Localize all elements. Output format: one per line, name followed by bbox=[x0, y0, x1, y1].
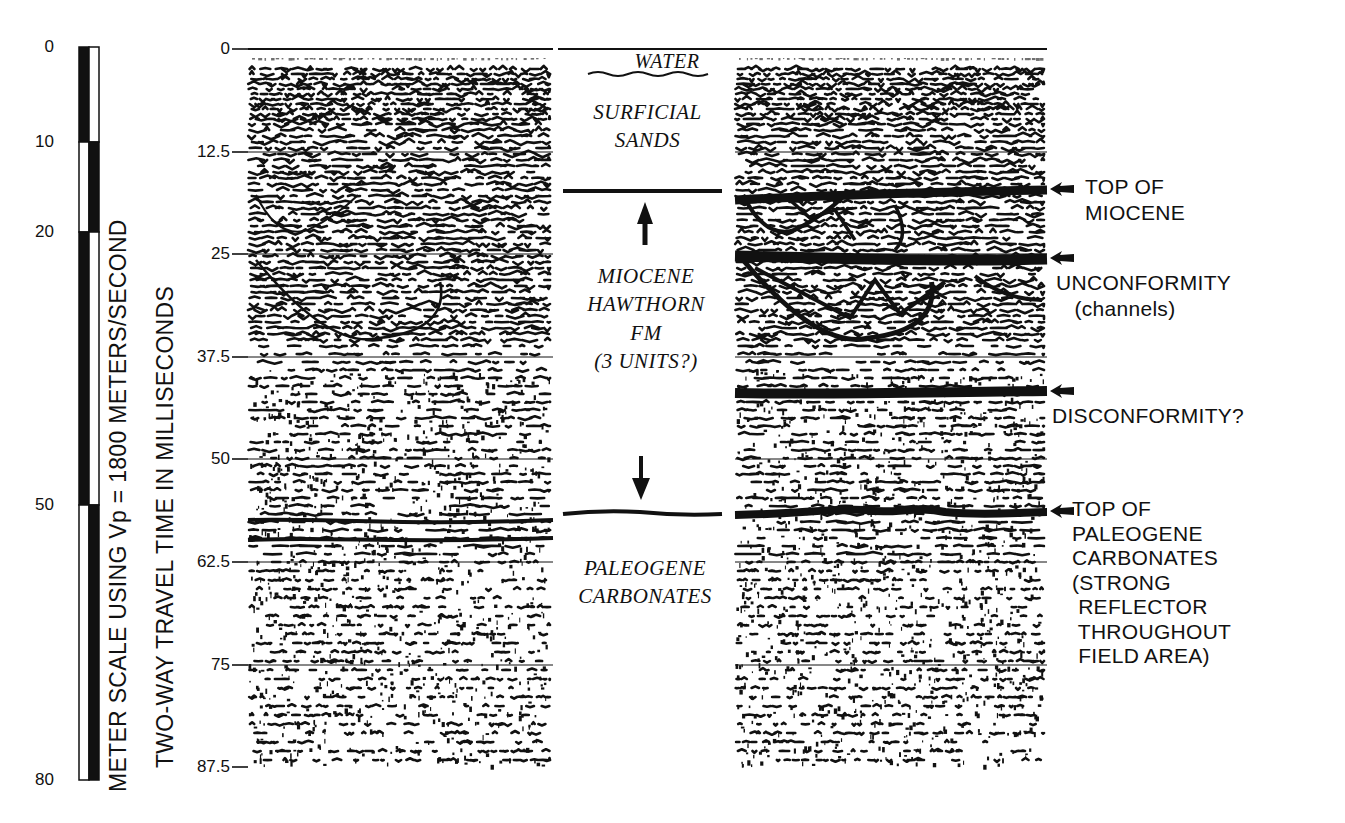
annotation-arrows bbox=[1050, 182, 1074, 518]
meter-tick-0: 0 bbox=[4, 38, 54, 55]
label-fm: FM bbox=[556, 319, 736, 347]
label-miocene-hawthorn: MIOCENE HAWTHORN FM (3 UNITS?) bbox=[556, 262, 736, 375]
annotation-top-of-paleogene: TOP OF PALEOGENE CARBONATES (STRONG REFL… bbox=[1072, 497, 1231, 669]
seismic-panel-raw bbox=[248, 49, 553, 770]
label-sands: SANDS bbox=[560, 126, 735, 154]
label-3-units: (3 UNITS?) bbox=[556, 347, 736, 375]
label-hawthorn: HAWTHORN bbox=[556, 290, 736, 318]
time-tick-37-5: 37.5 bbox=[170, 348, 230, 365]
label-water: WATER bbox=[612, 48, 722, 75]
label-surficial: SURFICIAL bbox=[560, 98, 735, 126]
time-tick-75: 75 bbox=[170, 656, 230, 673]
label-paleogene: PALEOGENE bbox=[552, 554, 738, 582]
time-tick-25: 25 bbox=[170, 245, 230, 262]
meter-scale-bar bbox=[79, 47, 99, 780]
meter-scale-label: METER SCALE USING Vp = 1800 METERS/SECON… bbox=[105, 219, 132, 792]
meter-tick-80: 80 bbox=[4, 771, 54, 788]
meter-tick-20: 20 bbox=[4, 223, 54, 240]
annotation-disconformity: DISCONFORMITY? bbox=[1052, 403, 1244, 429]
time-tick-0: 0 bbox=[170, 40, 230, 57]
label-carbonates: CARBONATES bbox=[552, 582, 738, 610]
meter-tick-50: 50 bbox=[4, 496, 54, 513]
seismic-panel-interpreted bbox=[735, 49, 1047, 770]
annotation-top-of-miocene: TOP OF MIOCENE bbox=[1085, 174, 1185, 225]
time-tick-50: 50 bbox=[170, 450, 230, 467]
time-axis-ticks bbox=[232, 49, 248, 767]
annotation-unconformity: UNCONFORMITY (channels) bbox=[1056, 270, 1231, 321]
time-tick-87-5: 87.5 bbox=[170, 758, 230, 775]
label-surficial-sands: SURFICIAL SANDS bbox=[560, 98, 735, 155]
time-tick-62-5: 62.5 bbox=[170, 553, 230, 570]
label-paleogene-carbonates: PALEOGENE CARBONATES bbox=[552, 554, 738, 611]
meter-tick-10: 10 bbox=[4, 133, 54, 150]
time-tick-12-5: 12.5 bbox=[170, 143, 230, 160]
label-miocene: MIOCENE bbox=[556, 262, 736, 290]
